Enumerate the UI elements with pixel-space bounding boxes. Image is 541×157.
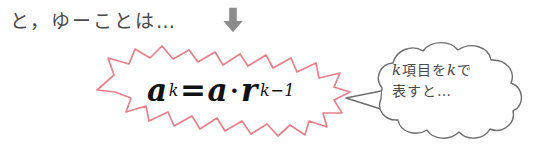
geometric-sequence-formula: ak=a·rk−1: [88, 42, 354, 138]
formula-base-right: a: [207, 72, 228, 108]
formula-exponent: k−1: [260, 81, 295, 100]
speech-bubble-text: k項目をkで 表すと…: [392, 60, 522, 102]
bubble-k-first: k: [392, 61, 402, 79]
bubble-line1-middle: 項目を: [402, 62, 447, 78]
formula-ratio-variable: r: [241, 72, 258, 108]
speech-bubble-line-2: 表すと…: [392, 81, 522, 102]
speech-bubble: k項目をkで 表すと…: [330, 38, 541, 143]
speech-bubble-line-1: k項目をkで: [392, 60, 522, 81]
formula-subscript-left: k: [169, 81, 179, 100]
intro-text: と，ゆーことは…: [10, 6, 177, 33]
arrow-down-icon: [222, 7, 244, 33]
formula-starburst: ak=a·rk−1: [88, 42, 354, 138]
formula-base-left: a: [147, 72, 168, 108]
bubble-line1-suffix: で: [457, 62, 472, 78]
formula-equals: =: [180, 72, 206, 108]
formula-dot-operator: ·: [230, 76, 239, 105]
bubble-k-second: k: [447, 61, 457, 79]
diagram-canvas: と，ゆーことは… ak=a·rk−1 k項目をkで 表すと…: [0, 0, 541, 157]
